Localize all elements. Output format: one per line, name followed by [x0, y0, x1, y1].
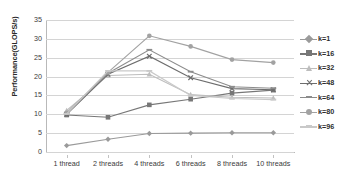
- plot-area: [46, 20, 294, 152]
- data-point: [230, 57, 235, 62]
- y-tick-label: 35: [20, 16, 42, 23]
- y-tick-label: 15: [20, 91, 42, 98]
- legend-item-k=16[interactable]: k=16: [300, 47, 354, 62]
- legend-label: k=48: [317, 79, 334, 87]
- legend-swatch-icon: [300, 63, 317, 73]
- y-tick-label: 25: [20, 54, 42, 61]
- legend-item-k=32[interactable]: k=32: [300, 61, 354, 76]
- legend-swatch-icon: [300, 122, 317, 132]
- legend-swatch-icon: [300, 107, 317, 117]
- x-tick-mark: [108, 155, 109, 158]
- x-axis-ticks: 1 thread2 threads4 threads6 threads8 thr…: [46, 155, 294, 171]
- data-point: [147, 34, 152, 39]
- x-tick-label: 10 threads: [245, 159, 301, 169]
- data-point: [106, 115, 111, 120]
- legend-label: k=80: [317, 108, 334, 116]
- legend-label: k=16: [317, 50, 334, 58]
- legend-swatch-icon: [300, 78, 317, 88]
- data-point: [64, 143, 69, 148]
- y-axis-ticks: 05101520253035: [18, 20, 42, 152]
- data-point: [147, 103, 152, 108]
- y-tick-label: 10: [20, 110, 42, 117]
- series-k=80: [64, 34, 275, 116]
- legend-item-k=64[interactable]: k=64: [300, 90, 354, 105]
- data-point: [188, 44, 193, 49]
- x-tick-mark: [149, 155, 150, 158]
- y-tick-label: 30: [20, 35, 42, 42]
- legend: k=1k=16k=32k=48k=64k=80k=96: [300, 32, 354, 134]
- performance-line-chart: Performance(GLOPS/s) 05101520253035 1 th…: [0, 0, 356, 185]
- legend-item-k=96[interactable]: k=96: [300, 120, 354, 135]
- y-tick-label: 0: [20, 148, 42, 155]
- data-point: [271, 60, 276, 65]
- x-tick-mark: [191, 155, 192, 158]
- y-tick-label: 20: [20, 73, 42, 80]
- legend-swatch-icon: [300, 34, 317, 44]
- series-k=1: [64, 130, 276, 148]
- legend-swatch-icon: [300, 93, 317, 103]
- series-k=64: [64, 50, 276, 114]
- x-tick-mark: [232, 155, 233, 158]
- x-tick-mark: [67, 155, 68, 158]
- data-point: [147, 131, 152, 136]
- y-tick-label: 5: [20, 129, 42, 136]
- legend-item-k=48[interactable]: k=48: [300, 76, 354, 91]
- legend-label: k=96: [317, 123, 334, 131]
- data-point: [105, 136, 110, 141]
- legend-swatch-icon: [300, 49, 317, 59]
- data-point: [147, 54, 152, 59]
- legend-label: k=64: [317, 94, 334, 102]
- legend-item-k=80[interactable]: k=80: [300, 105, 354, 120]
- series-k=16: [64, 88, 275, 120]
- data-point: [229, 130, 234, 135]
- legend-label: k=1: [317, 35, 330, 43]
- x-tick-mark: [273, 155, 274, 158]
- legend-item-k=1[interactable]: k=1: [300, 32, 354, 47]
- legend-label: k=32: [317, 64, 334, 72]
- gridline-0: [46, 152, 294, 153]
- data-point: [188, 130, 193, 135]
- data-point: [271, 130, 276, 135]
- data-point: [188, 97, 193, 102]
- series-lines: [46, 20, 294, 152]
